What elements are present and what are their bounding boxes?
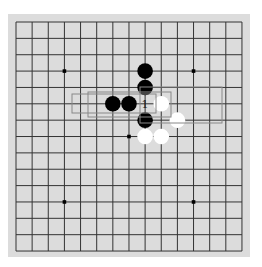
white-stone[interactable] — [137, 129, 153, 145]
star-point — [192, 200, 196, 204]
star-point — [63, 200, 67, 204]
white-stone[interactable] — [153, 129, 169, 145]
move-markers: 1 — [142, 98, 149, 111]
go-board[interactable]: 1 — [0, 0, 262, 267]
white-stone[interactable] — [170, 112, 186, 128]
star-point — [63, 69, 67, 73]
move-number-marker: 1 — [142, 98, 149, 111]
black-stone[interactable] — [105, 96, 121, 112]
star-point — [192, 69, 196, 73]
black-stone[interactable] — [121, 96, 137, 112]
star-point — [127, 135, 131, 139]
black-stone[interactable] — [137, 63, 153, 79]
